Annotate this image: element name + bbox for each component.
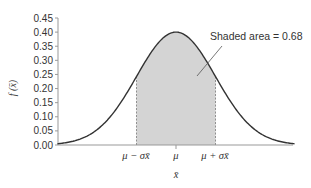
y-tick-label: 0.35 bbox=[34, 41, 54, 52]
y-tick-label: 0.05 bbox=[34, 125, 54, 136]
y-axis-label: f (x̄) bbox=[7, 79, 19, 96]
y-tick-label: 0.40 bbox=[34, 27, 54, 38]
x-tick-label-plus-sigma: μ + σx̄ bbox=[200, 150, 229, 161]
y-tick-label: 0.00 bbox=[34, 140, 54, 151]
shaded-area bbox=[137, 32, 216, 145]
x-tick-label-minus-sigma: μ − σx̄ bbox=[121, 150, 150, 161]
y-tick-label: 0.20 bbox=[34, 83, 54, 94]
y-axis: 0.000.050.100.150.200.250.300.350.400.45 bbox=[34, 13, 58, 151]
y-tick-label: 0.30 bbox=[34, 55, 54, 66]
y-tick-label: 0.10 bbox=[34, 111, 54, 122]
normal-distribution-chart: 0.000.050.100.150.200.250.300.350.400.45… bbox=[0, 0, 311, 188]
x-axis-label: x̄ bbox=[173, 169, 179, 180]
x-tick-label-mu: μ bbox=[172, 150, 178, 161]
shaded-area-annotation: Shaded area = 0.68 bbox=[210, 30, 303, 42]
y-tick-label: 0.25 bbox=[34, 69, 54, 80]
y-tick-label: 0.15 bbox=[34, 97, 54, 108]
y-tick-label: 0.45 bbox=[34, 13, 54, 24]
